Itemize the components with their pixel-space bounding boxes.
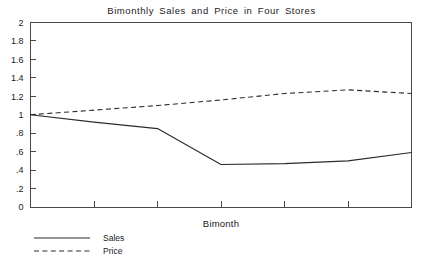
legend-label-sales: Sales — [103, 233, 124, 243]
chart-container: Bimonthly Sales and Price in Four Stores… — [0, 0, 423, 266]
y-tick-label: 0 — [18, 202, 23, 212]
y-tick-label: 1.8 — [11, 36, 24, 46]
y-tick-label: 1.4 — [11, 73, 24, 83]
y-tick-label: 1.2 — [11, 92, 24, 102]
plot-frame — [31, 23, 412, 208]
y-tick-label: .6 — [16, 147, 24, 157]
series-line-sales — [31, 115, 412, 165]
y-tick-label: 2 — [18, 18, 23, 28]
x-axis-label: Bimonth — [203, 218, 239, 229]
chart-legend: SalesPrice — [34, 233, 124, 256]
y-tick-label: 1 — [18, 110, 23, 120]
y-tick-label: .8 — [16, 128, 24, 138]
y-tick-label: .2 — [16, 184, 24, 194]
y-tick-label: 1.6 — [11, 55, 24, 65]
series-line-price — [31, 90, 412, 115]
x-axis-ticks — [94, 201, 348, 207]
legend-label-price: Price — [103, 246, 123, 256]
y-tick-label: .4 — [16, 165, 24, 175]
chart-title: Bimonthly Sales and Price in Four Stores — [107, 5, 315, 16]
line-chart: Bimonthly Sales and Price in Four Stores… — [0, 0, 423, 266]
